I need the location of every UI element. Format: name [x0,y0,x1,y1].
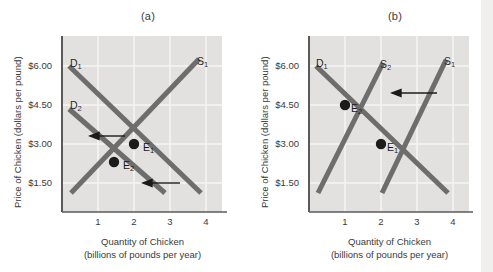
panel-b-equilibrium-2-marker [340,100,350,110]
panel-a-equilibrium-1-sub: 1 [150,146,154,155]
panel-a-label-supply-1-base: S [197,55,204,67]
panel-b-equilibrium-1-sub: 1 [394,146,398,155]
panel-a-label-demand-1-sub: 1 [78,62,82,71]
panel-b-label-supply-1-base: S [444,55,451,67]
panel-b-x-axis-label-line2: (billions of pounds per year) [307,248,472,261]
page-edge-strip [481,0,493,272]
panel-b-label-demand-1-sub: 1 [324,62,328,71]
panel-b-label-supply-2-base: S [380,58,387,70]
panel-a-label-demand-1-base: D [70,57,78,69]
panel-a-label-supply-1: S1 [197,55,208,67]
panel-b-label-demand-1: D1 [316,57,328,69]
supply-demand-figure: (a) Price of Chicken (dollars per pound)… [0,0,493,272]
panel-b-equilibrium-2-label: E2 [351,102,362,114]
panel-b-plot [247,0,493,272]
panel-a-equilibrium-2-marker [109,157,119,167]
panel-a-equilibrium-2-base: E [123,159,130,171]
panel-b-equilibrium-1-marker [376,139,386,149]
panel-b-equilibrium-1-label: E1 [387,141,398,153]
panel-b-x-axis-label: Quantity of Chicken (billions of pounds … [307,235,472,261]
panel-b-label-demand-1-base: D [316,57,324,69]
panel-b-label-supply-1-sub: 1 [451,60,455,69]
panel-a-plot [0,0,247,272]
panel-b-label-supply-2-sub: 2 [387,63,391,72]
panel-b-equilibrium-2-sub: 2 [358,107,362,116]
panel-a-label-demand-2: D2 [70,99,82,111]
panel-a-x-axis-label-line1: Quantity of Chicken [60,235,225,248]
panel-a-label-demand-2-sub: 2 [78,104,82,113]
panel-b-x-axis-label-line1: Quantity of Chicken [307,235,472,248]
panel-b-equilibrium-2-base: E [351,102,358,114]
panel-a-label-supply-1-sub: 1 [204,60,208,69]
panel-b-label-supply-1: S1 [444,55,455,67]
panel-a-x-axis-label-line2: (billions of pounds per year) [60,248,225,261]
panel-a-label-demand-1: D1 [70,57,82,69]
panel-a-equilibrium-1-marker [129,139,139,149]
panel-b-label-supply-2: S2 [380,58,391,70]
panel-a-equilibrium-1-base: E [143,141,150,153]
panel-a-equilibrium-2-sub: 2 [130,164,134,173]
panel-a-equilibrium-1-label: E1 [143,141,154,153]
panel-a-equilibrium-2-label: E2 [123,159,134,171]
panel-a-x-axis-label: Quantity of Chicken (billions of pounds … [60,235,225,261]
panel-b-equilibrium-1-base: E [387,141,394,153]
panel-a-label-demand-2-base: D [70,99,78,111]
